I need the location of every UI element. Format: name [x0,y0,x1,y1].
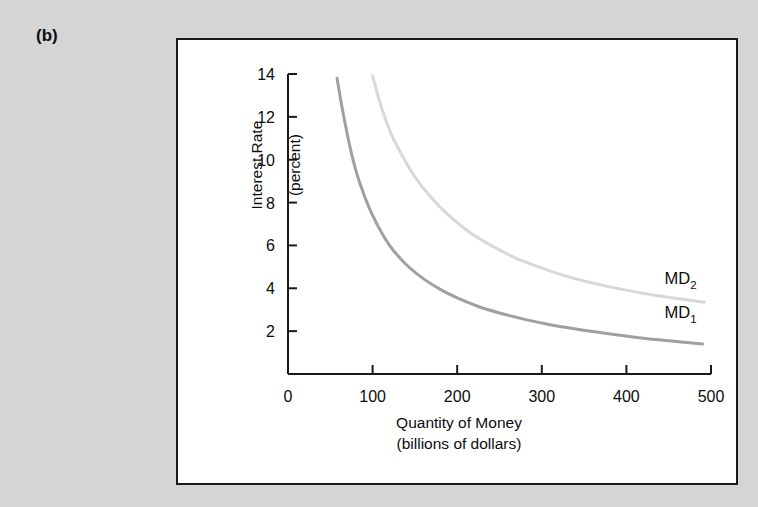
curve-label-MD2: MD2 [664,269,696,291]
y-tick-label: 4 [266,280,275,297]
x-tick-label: 200 [444,388,471,405]
x-tick-label: 0 [284,388,293,405]
y-axis-title-line2: (percent) [286,134,303,196]
x-tick-label: 500 [698,388,725,405]
curve-MD2 [373,76,705,302]
y-tick-label: 2 [266,323,275,340]
curve-MD1 [337,78,702,344]
x-tick-label: 400 [613,388,640,405]
y-tick-label: 14 [257,66,275,83]
chart-panel: 24681012140100200300400500 MD1MD2 Intere… [176,38,738,485]
x-axis-title: Quantity of Money (billions of dollars) [178,412,740,454]
panel-label: (b) [36,26,58,46]
y-axis-title-line1: Interest Rate [248,121,265,210]
figure-root: (b) 24681012140100200300400500 MD1MD2 In… [0,0,758,507]
x-axis-title-line1: Quantity of Money [396,414,522,431]
x-axis-title-line2: (billions of dollars) [178,433,740,454]
x-tick-label: 100 [359,388,386,405]
curves-group [337,76,704,344]
curve-label-MD1: MD1 [664,303,696,325]
x-tick-label: 300 [528,388,555,405]
y-axis-title: Interest Rate (percent) [228,83,268,273]
axes-group: 24681012140100200300400500 [257,66,724,405]
